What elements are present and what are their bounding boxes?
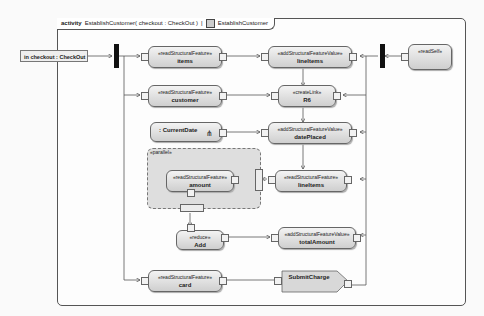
input-pin — [271, 234, 279, 242]
stereotype: «createLink» — [279, 89, 335, 95]
input-pin — [187, 224, 195, 232]
action-name: datePlaced — [269, 134, 351, 140]
stereotype: «addStructuralFeatureValue» — [279, 231, 355, 237]
action-name: lineItems — [269, 58, 351, 64]
call-behavior-icon: ⋔ — [206, 129, 213, 138]
action-add-lineitems[interactable]: «addStructuralFeatureValue» lineItems — [268, 46, 352, 68]
action-name: items — [149, 58, 221, 64]
output-pin — [219, 129, 227, 137]
input-pin — [349, 129, 357, 137]
action-name: SubmitCharge — [281, 274, 337, 280]
input-pin — [261, 129, 269, 137]
action-add-totalamount[interactable]: «addStructuralFeatureValue» totalAmount — [278, 227, 356, 249]
action-name: Add — [177, 242, 223, 248]
action-current-date[interactable]: : CurrentDate ⋔ — [150, 122, 222, 142]
stereotype: «readSelf» — [409, 48, 451, 54]
output-expansion-node — [180, 204, 204, 212]
fork-bar-right — [380, 44, 385, 68]
action-read-self[interactable]: «readSelf» — [408, 44, 452, 70]
input-pin — [274, 277, 282, 285]
action-create-link[interactable]: «createLink» R6 — [278, 85, 336, 107]
region-label: «parallel» — [150, 149, 172, 155]
action-read-customer[interactable]: «readStructuralFeature» customer — [148, 85, 222, 107]
action-read-card[interactable]: «readStructuralFeature» card — [148, 270, 222, 292]
action-name: totalAmount — [279, 239, 355, 245]
action-name: lineItems — [276, 182, 346, 188]
stereotype: «addStructuralFeatureValue» — [269, 50, 351, 56]
stereotype: «readStructuralFeature» — [276, 174, 346, 180]
stereotype: «readStructuralFeature» — [149, 50, 221, 56]
action-add-dateplaced[interactable]: «addStructuralFeatureValue» datePlaced — [268, 122, 352, 144]
action-read-amount[interactable]: «readStructuralFeature» amount — [166, 170, 234, 192]
stereotype: «readStructuralFeature» — [149, 274, 221, 280]
action-reduce-add[interactable]: «reduce» Add — [176, 230, 224, 250]
output-pin — [219, 277, 227, 285]
input-pin — [231, 176, 239, 184]
input-pin — [261, 53, 269, 61]
stereotype: «readStructuralFeature» — [149, 89, 221, 95]
action-read-items[interactable]: «readStructuralFeature» items — [148, 46, 222, 68]
action-name: amount — [167, 182, 233, 188]
input-pin — [271, 92, 279, 100]
input-pin — [344, 176, 352, 184]
action-read-lineitems[interactable]: «readStructuralFeature» lineItems — [275, 170, 347, 192]
output-pin — [401, 53, 409, 61]
input-pin — [344, 280, 352, 288]
input-pin — [349, 53, 357, 61]
stereotype: «reduce» — [177, 234, 223, 240]
output-pin — [268, 176, 276, 184]
input-parameter-checkout[interactable]: in checkout : CheckOut — [20, 50, 88, 62]
fork-bar-left — [114, 44, 119, 68]
output-pin — [221, 234, 229, 242]
stereotype: «readStructuralFeature» — [167, 174, 233, 180]
input-pin — [141, 277, 149, 285]
output-pin — [187, 189, 195, 197]
output-pin — [219, 53, 227, 61]
input-pin — [353, 234, 361, 242]
action-name: card — [149, 282, 221, 288]
input-expansion-node — [255, 169, 263, 191]
send-signal-submitcharge[interactable]: SubmitCharge — [281, 270, 349, 292]
action-name: customer — [149, 97, 221, 103]
output-pin — [219, 92, 227, 100]
input-pin — [141, 53, 149, 61]
input-pin — [141, 92, 149, 100]
stereotype: «addStructuralFeatureValue» — [269, 126, 351, 132]
action-name: R6 — [279, 97, 335, 103]
input-pin — [333, 92, 341, 100]
